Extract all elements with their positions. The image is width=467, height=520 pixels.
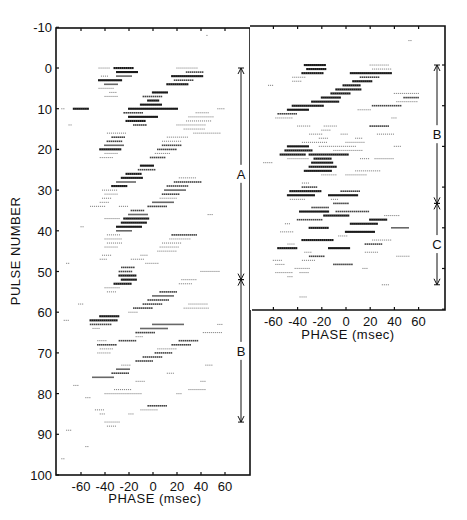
subpulse-dot	[362, 72, 364, 74]
subpulse-dot	[133, 267, 135, 269]
subpulse-dot	[149, 356, 151, 358]
subpulse-dot	[362, 223, 364, 225]
subpulse-dot	[164, 243, 165, 244]
subpulse-dot	[364, 223, 366, 225]
subpulse-dot	[304, 183, 305, 184]
subpulse-dot	[313, 227, 315, 229]
subpulse-dot	[111, 393, 112, 394]
subpulse-dot	[145, 356, 147, 358]
subpulse-dot	[143, 210, 145, 212]
subpulse-dot	[341, 215, 343, 217]
subpulse-dot	[361, 170, 362, 171]
subpulse-dot	[283, 247, 285, 249]
subpulse-dot	[304, 142, 305, 143]
subpulse-dot	[404, 101, 405, 102]
subpulse-dot	[326, 126, 327, 127]
subpulse-dot	[192, 124, 193, 125]
subpulse-dot	[379, 170, 380, 171]
subpulse-dot	[351, 84, 353, 86]
subpulse-dot	[109, 194, 110, 195]
subpulse-dot	[328, 170, 330, 172]
subpulse-dot	[381, 219, 383, 221]
subpulse-dot	[294, 199, 295, 200]
subpulse-dot	[146, 328, 148, 330]
subpulse-dot	[174, 181, 176, 183]
subpulse-dot	[118, 230, 120, 232]
subpulse-dot	[150, 165, 152, 167]
subpulse-dot	[125, 133, 126, 134]
subpulse-dot	[296, 199, 297, 200]
subpulse-dot	[294, 105, 296, 107]
subpulse-dot	[310, 142, 311, 143]
subpulse-dot	[113, 393, 114, 394]
subpulse-dot	[128, 413, 129, 414]
subpulse-dot	[147, 100, 149, 102]
subpulse-dot	[195, 279, 196, 280]
subpulse-dot	[401, 227, 403, 229]
subpulse-dot	[319, 219, 321, 221]
subpulse-dot	[345, 264, 347, 266]
subpulse-dot	[108, 324, 110, 326]
left-panel: -100102030405060708090100 -60-40-2002040…	[8, 20, 250, 506]
subpulse-dot	[301, 190, 303, 192]
subpulse-dot	[319, 72, 321, 74]
subpulse-dot	[364, 109, 365, 110]
subpulse-dot	[294, 149, 296, 151]
subpulse-dot	[116, 181, 118, 183]
subpulse-dot	[309, 219, 311, 221]
subpulse-dot	[325, 130, 326, 131]
subpulse-dot	[182, 189, 184, 191]
subpulse-dot	[135, 332, 137, 334]
subpulse-dot	[100, 319, 102, 321]
subpulse-dot	[118, 181, 120, 183]
subpulse-dot	[103, 68, 104, 69]
subpulse-dot	[388, 240, 389, 241]
subpulse-dot	[391, 158, 392, 159]
subpulse-dot	[307, 109, 309, 111]
subpulse-dot	[316, 142, 317, 143]
subpulse-dot	[132, 393, 133, 394]
subpulse-dot	[190, 120, 191, 121]
subpulse-dot	[313, 211, 315, 213]
subpulse-dot	[315, 101, 317, 103]
right-panel: -60-40-200204060 PHASE (msec) BC	[250, 26, 445, 342]
subpulse-dot	[316, 68, 318, 70]
subpulse-dot	[200, 389, 201, 390]
subpulse-dot	[124, 67, 126, 69]
subpulse-dot	[112, 190, 113, 191]
subpulse-dot	[117, 315, 119, 317]
subpulse-dot	[348, 92, 350, 94]
subpulse-dot	[151, 360, 153, 362]
subpulse-dot	[128, 275, 130, 277]
subpulse-dot	[105, 352, 106, 353]
subpulse-dot	[168, 145, 170, 147]
subpulse-dot	[317, 207, 319, 209]
subpulse-dot	[349, 142, 350, 143]
subpulse-dot	[289, 190, 291, 192]
subpulse-dot	[144, 108, 146, 110]
subpulse-dot	[125, 206, 126, 207]
subpulse-dot	[374, 240, 375, 241]
subpulse-dot	[210, 120, 211, 121]
subpulse-dot	[317, 154, 319, 156]
subpulse-dot	[342, 194, 344, 196]
subpulse-dot	[107, 344, 109, 346]
subpulse-dot	[370, 223, 372, 225]
subpulse-dot	[154, 295, 156, 297]
subpulse-dot	[121, 206, 122, 207]
subpulse-dot	[311, 194, 313, 196]
subpulse-dot	[192, 120, 193, 121]
subpulse-dot	[186, 68, 187, 69]
subpulse-dot	[116, 283, 118, 285]
subpulse-dot	[163, 206, 165, 208]
subpulse-dot	[172, 145, 174, 147]
subpulse-dot	[405, 97, 407, 99]
subpulse-dot	[134, 108, 136, 110]
subpulse-dot	[314, 260, 315, 261]
subpulse-dot	[332, 247, 334, 249]
subpulse-dot	[281, 117, 282, 118]
subpulse-dot	[165, 149, 167, 151]
subpulse-dot	[110, 157, 111, 158]
segment-label: C	[432, 237, 441, 252]
subpulse-dot	[174, 247, 175, 248]
